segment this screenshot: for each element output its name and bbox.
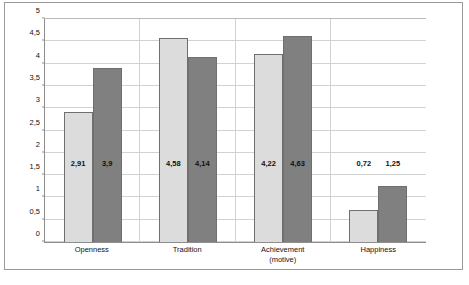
bar-high-education: 1,25 [378,186,407,242]
bar-value-label: 4,22 [261,159,276,168]
bar-low-education: 4,58 [159,38,188,242]
y-tick-label: 1,5 [30,162,40,171]
y-tick-label: 4 [36,50,40,59]
x-axis-category-label: Tradition [140,245,236,264]
y-tick-label: 2,5 [30,117,40,126]
bar-low-education: 4,22 [254,54,283,242]
y-tick-label: 3 [36,95,40,104]
bar-value-label: 3,9 [102,159,112,168]
plot-wrapper: 00,511,522,533,544,55 2,913,94,584,144,2… [44,19,426,243]
bar-groups: 2,913,94,584,144,224,630,721,25 [45,19,426,242]
bar-pair: 4,224,63 [236,19,331,242]
y-tick-label: 2 [36,139,40,148]
figure-caption [6,275,446,283]
x-axis-label-line: Achievement [235,245,331,255]
bar-group: 4,584,14 [140,19,235,242]
x-axis-category-label: Openness [44,245,140,264]
y-tick-label: 1 [36,184,40,193]
bar-low-education: 0,72 [349,210,378,242]
chart-figure: Low education High education 00,511,522,… [0,0,469,285]
x-axis-category-label: Happiness [331,245,427,264]
plot-area: 00,511,522,533,544,55 2,913,94,584,144,2… [44,19,426,243]
x-axis-label-line: (motive) [235,255,331,265]
bar-pair: 2,913,9 [45,19,140,242]
bar-high-education: 4,63 [283,36,312,242]
bar-value-label: 0,72 [357,159,372,168]
bar-value-label: 4,58 [166,159,181,168]
x-axis-label-line: Tradition [140,245,236,255]
bar-value-label: 2,91 [71,159,86,168]
y-tick-label: 0,5 [30,206,40,215]
bar-value-label: 1,25 [386,159,401,168]
bar-group: 0,721,25 [331,19,426,242]
y-tick-label: 0 [36,229,40,238]
x-axis-labels: OpennessTraditionAchievement(motive)Happ… [44,245,426,264]
bar-low-education: 2,91 [64,112,93,242]
bar-pair: 0,721,25 [331,19,426,242]
bar-pair: 4,584,14 [140,19,235,242]
y-tick-label: 3,5 [30,72,40,81]
bar-high-education: 4,14 [188,57,217,242]
bar-value-label: 4,63 [290,159,305,168]
x-axis-label-line: Openness [44,245,140,255]
bar-value-label: 4,14 [195,159,210,168]
y-tick-label: 5 [36,6,40,15]
bar-group: 4,224,63 [236,19,331,242]
y-tick-label: 4,5 [30,28,40,37]
bar-group: 2,913,9 [45,19,140,242]
bar-high-education: 3,9 [93,68,122,242]
x-axis-label-line: Happiness [331,245,427,255]
x-axis-category-label: Achievement(motive) [235,245,331,264]
